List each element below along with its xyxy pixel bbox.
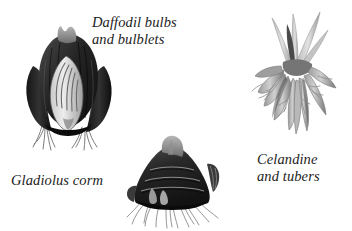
caption-daffodil: Daffodil bulbs and bulblets	[92, 14, 177, 47]
celandine-tuber-figure	[252, 12, 336, 134]
gladiolus-corm-figure	[127, 136, 219, 228]
caption-celandine: Celandine and tubers	[257, 151, 320, 184]
caption-gladiolus: Gladiolus corm	[11, 172, 103, 189]
daffodil-neck	[58, 26, 77, 43]
celandine-tubers	[255, 66, 336, 134]
celandine-crown	[283, 59, 313, 76]
